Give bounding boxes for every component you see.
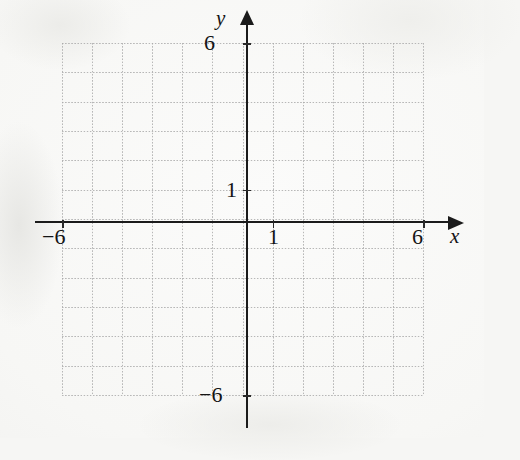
- grid-line-horizontal: [62, 219, 423, 220]
- x-axis-tick: [273, 220, 275, 228]
- y-tick-label-minus6: −6: [199, 384, 222, 406]
- y-tick-label-1: 1: [226, 179, 237, 201]
- grid-line-horizontal: [62, 102, 423, 103]
- x-axis-tick: [423, 220, 425, 228]
- x-axis-label: x: [450, 226, 459, 247]
- grid-line-horizontal: [62, 72, 423, 73]
- y-axis-tick: [243, 190, 251, 192]
- grid-line-horizontal: [62, 366, 423, 367]
- y-axis-line: [246, 22, 248, 428]
- grid-line-horizontal: [62, 131, 423, 132]
- x-tick-label-minus6: −6: [42, 226, 65, 248]
- grid-line-horizontal: [62, 336, 423, 337]
- y-axis-arrow-icon: [240, 10, 254, 25]
- y-axis-tick: [243, 395, 251, 397]
- paper-blotch: [140, 390, 400, 460]
- y-tick-label-6: 6: [204, 32, 215, 54]
- grid-line-horizontal: [62, 160, 423, 161]
- x-axis-tick: [62, 220, 64, 228]
- coordinate-grid: [62, 43, 423, 395]
- grid-line-horizontal: [62, 278, 423, 279]
- grid-line-horizontal: [62, 248, 423, 249]
- x-tick-label-1: 1: [268, 226, 279, 248]
- y-axis-label: y: [216, 8, 225, 29]
- x-tick-label-6: 6: [412, 226, 423, 248]
- x-axis-line: [35, 221, 453, 223]
- y-axis-tick: [243, 43, 251, 45]
- grid-line-horizontal: [62, 307, 423, 308]
